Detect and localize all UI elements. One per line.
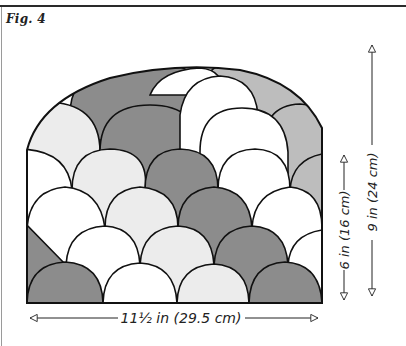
width-dimension: 11½ in (29.5 cm) xyxy=(30,310,318,326)
side-height-dimension: 6 in (16 cm) xyxy=(337,155,352,300)
scallop-quilt-diagram: 11½ in (29.5 cm) 6 in (16 cm) 9 in (24 c… xyxy=(0,0,406,346)
total-height-label: 9 in (24 cm) xyxy=(365,152,380,231)
width-label: 11½ in (29.5 cm) xyxy=(121,310,242,326)
side-height-label: 6 in (16 cm) xyxy=(337,190,352,269)
total-height-dimension: 9 in (24 cm) xyxy=(365,45,380,296)
